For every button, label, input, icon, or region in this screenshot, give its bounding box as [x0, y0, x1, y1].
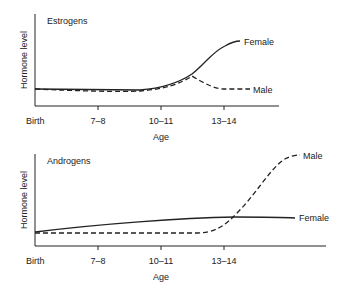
- tick-label: Birth: [26, 256, 45, 266]
- female-label: Female: [299, 213, 329, 223]
- tick-label: 7–8: [90, 116, 105, 126]
- female-line: [35, 217, 295, 232]
- androgens-chart: Androgens Hormone level Birth 7–8 10–11 …: [19, 151, 329, 282]
- tick-label: Birth: [26, 116, 45, 126]
- x-axis-label: Age: [153, 132, 169, 142]
- male-label: Male: [303, 151, 323, 161]
- female-label: Female: [244, 37, 274, 47]
- y-axis-label: Hormone level: [19, 171, 29, 229]
- tick-label: 7–8: [90, 256, 105, 266]
- chart-title: Androgens: [47, 156, 91, 166]
- male-line: [35, 155, 300, 233]
- tick-label: 13–14: [211, 256, 236, 266]
- x-axis-label: Age: [153, 272, 169, 282]
- estrogens-chart: Estrogens Hormone level Birth 7–8 10–11 …: [19, 14, 279, 142]
- tick-label: 10–11: [149, 256, 173, 266]
- tick-label: 10–11: [149, 116, 173, 126]
- female-line: [35, 41, 240, 90]
- y-axis-label: Hormone level: [19, 31, 29, 89]
- tick-label: 13–14: [211, 116, 236, 126]
- hormone-charts: Estrogens Hormone level Birth 7–8 10–11 …: [0, 0, 343, 296]
- male-label: Male: [253, 85, 273, 95]
- chart-title: Estrogens: [47, 16, 88, 26]
